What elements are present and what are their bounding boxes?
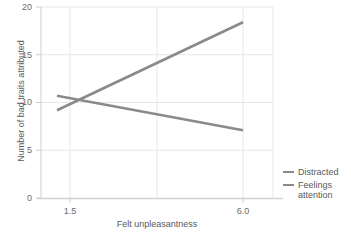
x-tick-label-6-0: 6.0 [228, 206, 258, 216]
legend-item-distracted[interactable]: Distracted [283, 167, 339, 177]
legend-line-icon [283, 171, 294, 173]
x-tick-label-1-5: 1.5 [55, 206, 85, 216]
legend-label: Feelings attention [298, 180, 333, 200]
legend-line-icon [283, 184, 294, 186]
line-chart-figure: 20 15 10 5 0 1.5 6.0 Felt unpleasantness… [0, 0, 351, 236]
legend: Distracted Feelings attention [283, 167, 339, 203]
y-axis-title: Number of bad traits attributed [16, 6, 26, 196]
x-axis-title: Felt unpleasantness [41, 219, 273, 229]
legend-item-feelings-attention[interactable]: Feelings attention [283, 180, 339, 200]
legend-label: Distracted [298, 167, 339, 177]
